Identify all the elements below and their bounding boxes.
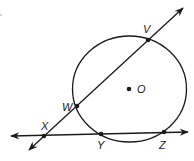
point-w xyxy=(75,104,80,109)
point-y xyxy=(99,132,104,137)
secant-line-xv xyxy=(29,8,183,150)
point-label-w: W xyxy=(62,101,74,113)
point-z xyxy=(162,130,167,135)
point-label-x: X xyxy=(40,120,49,132)
point-v xyxy=(146,38,151,43)
point-x xyxy=(42,134,47,139)
point-o xyxy=(127,87,132,92)
point-label-o: O xyxy=(137,83,146,95)
geometry-diagram: VWXYZO xyxy=(0,0,194,161)
point-label-y: Y xyxy=(97,139,105,151)
point-label-v: V xyxy=(143,23,152,35)
point-label-z: Z xyxy=(158,139,167,151)
speck xyxy=(0,14,2,16)
